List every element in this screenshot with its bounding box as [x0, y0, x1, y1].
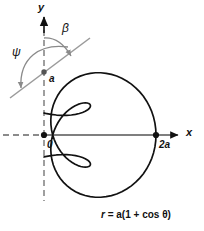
y-intercept-a-dot [41, 69, 46, 74]
y-axis-label: y [38, 2, 44, 13]
x-intercept-2a-dot [153, 132, 159, 138]
equation-lhs: r [101, 209, 105, 220]
cardioid-figure: y x 0 2a a β ψ r = a(1 + cos θ) [0, 0, 204, 231]
psi-angle-label: ψ [12, 46, 21, 58]
x-axis-label: x [186, 127, 192, 138]
equation-operator: = [108, 209, 114, 220]
x-intercept-label-2a: 2a [159, 140, 170, 150]
y-intercept-label-a: a [49, 74, 55, 84]
figure-canvas [0, 0, 204, 231]
beta-angle-label: β [62, 22, 69, 34]
equation-rhs: a(1 + cos θ) [116, 209, 171, 220]
origin-label: 0 [47, 140, 53, 150]
equation-label: r = a(1 + cos θ) [101, 210, 171, 220]
origin-point-dot [41, 132, 47, 138]
